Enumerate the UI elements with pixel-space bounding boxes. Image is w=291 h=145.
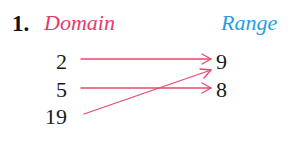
arrow-2-to-9 — [81, 54, 211, 64]
arrow-5-to-8 — [81, 83, 211, 93]
mapping-diagram: 1. Domain Range 2 5 19 9 8 — [0, 0, 291, 145]
arrow-19-to-9 — [84, 69, 211, 114]
mapping-arrows — [0, 0, 291, 145]
